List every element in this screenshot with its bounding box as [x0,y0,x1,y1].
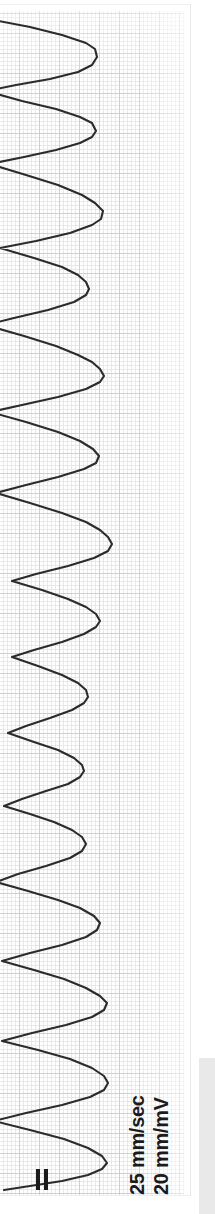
ecg-lead-calibration-marker [36,1169,48,1190]
gain-label: 20 mm/mV [150,1097,173,1195]
ecg-waveform-path [0,19,112,1190]
ecg-strip-panel: 25 mm/sec 20 mm/mV [0,4,191,1196]
ecg-figure: 25 mm/sec 20 mm/mV FIGURE 6-3 [0,0,215,1214]
paper-speed-label: 25 mm/sec [126,1095,149,1195]
figure-number-band [199,1058,215,1214]
ecg-waveform-trace [0,5,191,1196]
